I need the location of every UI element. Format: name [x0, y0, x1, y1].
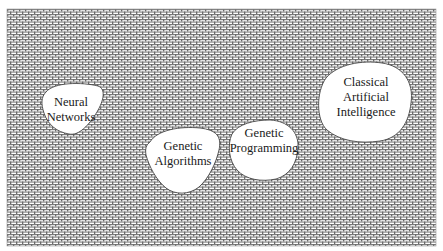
label-classical-ai-line-3: Intelligence	[337, 105, 396, 120]
label-genetic-programming-line-1: Genetic	[230, 126, 299, 141]
label-classical-ai-line-1: Classical	[337, 75, 396, 90]
label-neural-networks: Neural Networks	[47, 95, 96, 125]
label-genetic-algorithms-line-1: Genetic	[155, 139, 212, 154]
label-genetic-programming-line-2: Programming	[230, 141, 299, 156]
label-neural-networks-line-1: Neural	[47, 95, 96, 110]
label-genetic-algorithms: Genetic Algorithms	[155, 139, 212, 169]
label-classical-ai-line-2: Artificial	[337, 90, 396, 105]
label-neural-networks-line-2: Networks	[47, 110, 96, 125]
diagram-canvas	[0, 0, 443, 251]
label-genetic-algorithms-line-2: Algorithms	[155, 154, 212, 169]
label-classical-ai: Classical Artificial Intelligence	[337, 75, 396, 120]
label-genetic-programming: Genetic Programming	[230, 126, 299, 156]
